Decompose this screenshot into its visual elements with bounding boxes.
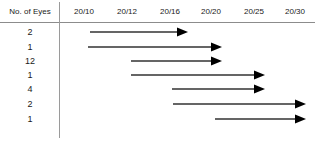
x-axis-tick-20-10: 20/10	[74, 7, 94, 17]
row-count-label: 1	[4, 42, 56, 53]
header-horizontal-rule	[0, 22, 315, 23]
column-divider-line	[59, 2, 60, 138]
acuity-range-arrow	[215, 114, 306, 125]
row-count-label: 2	[4, 99, 56, 110]
row-count-label: 2	[4, 27, 56, 38]
x-axis-tick-20-16: 20/16	[160, 7, 180, 17]
row-count-label: 1	[4, 70, 56, 81]
x-axis-tick-20-30: 20/30	[285, 7, 305, 17]
x-axis-tick-20-25: 20/25	[244, 7, 264, 17]
x-axis-tick-20-12: 20/12	[117, 7, 137, 17]
acuity-range-arrow	[88, 42, 222, 53]
acuity-range-arrow	[131, 56, 222, 67]
x-axis-tick-20-20: 20/20	[201, 7, 221, 17]
acuity-range-arrow	[173, 99, 306, 110]
visual-acuity-chart: No. of Eyes 20/1020/1220/1620/2020/2520/…	[0, 0, 315, 143]
row-count-label: 1	[4, 114, 56, 125]
acuity-range-arrow	[131, 70, 265, 81]
row-count-label: 12	[4, 56, 56, 67]
acuity-range-arrow	[172, 84, 265, 95]
row-count-label: 4	[4, 84, 56, 95]
row-label-column-header: No. of Eyes	[4, 7, 56, 17]
acuity-range-arrow	[90, 27, 188, 38]
